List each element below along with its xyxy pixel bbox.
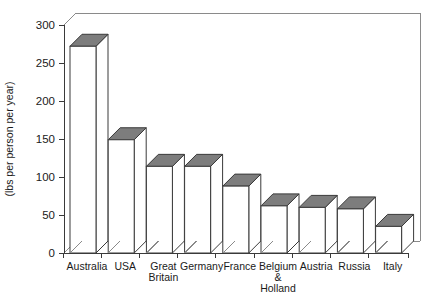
x-tick-label: Germany xyxy=(180,260,224,272)
bar-russia xyxy=(337,197,375,253)
x-tick-label: USA xyxy=(114,260,136,272)
x-tick-label: Italy xyxy=(383,260,403,272)
x-tick-label: Britain xyxy=(149,271,179,283)
bar-side-face xyxy=(249,174,261,253)
bar-front-face xyxy=(108,140,134,253)
bar-front-face xyxy=(299,207,325,253)
y-axis-title-text: (lbs per person per year) xyxy=(3,82,15,197)
y-axis-ticks: 050100150200250300 xyxy=(36,19,64,259)
x-tick-label: Holland xyxy=(260,282,296,294)
y-tick-label: 100 xyxy=(36,171,55,183)
bar-front-face xyxy=(146,166,172,253)
bar-great-britain xyxy=(146,154,184,253)
bar-australia xyxy=(70,34,108,253)
bar-side-face xyxy=(172,154,184,253)
y-axis-title: (lbs per person per year) xyxy=(3,82,15,197)
y-tick-label: 200 xyxy=(36,95,55,107)
bar-side-face xyxy=(211,154,223,253)
bar-side-face xyxy=(134,128,146,253)
bar-austria xyxy=(299,195,337,253)
y-tick-label: 0 xyxy=(49,247,55,259)
bar-france xyxy=(223,174,261,253)
bars-group xyxy=(70,34,414,253)
y-tick-label: 250 xyxy=(36,57,55,69)
chart-canvas: 050100150200250300 AustraliaUSAGreatBrit… xyxy=(0,0,435,306)
bar-front-face xyxy=(223,186,249,253)
x-tick-label: Russia xyxy=(338,260,370,272)
bar-usa xyxy=(108,128,146,253)
y-tick-label: 150 xyxy=(36,133,55,145)
bar-front-face xyxy=(185,166,211,253)
x-tick-label: Austria xyxy=(300,260,333,272)
y-tick-label: 300 xyxy=(36,19,55,31)
x-axis-ticks: AustraliaUSAGreatBritainGermanyFranceBel… xyxy=(63,253,409,294)
bar-germany xyxy=(185,154,223,253)
x-tick-label: France xyxy=(223,260,256,272)
y-tick-label: 50 xyxy=(42,209,55,221)
bar-front-face xyxy=(337,209,363,253)
bar-side-face xyxy=(96,34,108,253)
bar-chart-figure: 050100150200250300 AustraliaUSAGreatBrit… xyxy=(0,0,435,306)
bar-front-face xyxy=(70,46,96,253)
bar-belgium-holland xyxy=(261,194,299,253)
bar-front-face xyxy=(261,206,287,253)
x-tick-label: Australia xyxy=(67,260,108,272)
